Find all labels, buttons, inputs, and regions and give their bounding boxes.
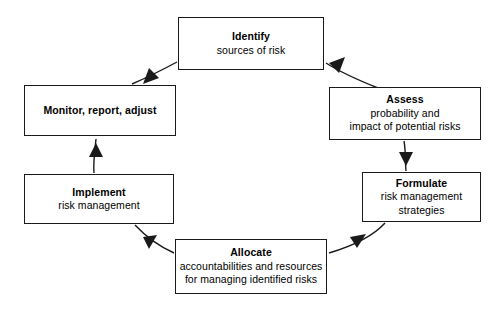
node-formulate-line2: risk management — [381, 190, 462, 203]
node-allocate[interactable]: Allocate accountabilities and resources … — [175, 239, 327, 294]
node-monitor[interactable]: Monitor, report, adjust — [24, 85, 176, 136]
connector-assess-to-formulate — [399, 141, 413, 171]
node-identify[interactable]: Identify sources of risk — [178, 17, 324, 70]
node-identify-line2: sources of risk — [217, 44, 285, 57]
risk-management-cycle-diagram: Identify sources of risk Assess probabil… — [0, 0, 501, 311]
node-implement-title: Implement — [72, 186, 125, 199]
node-formulate-line3: strategies — [398, 204, 444, 217]
connector-monitor-to-identify — [132, 62, 177, 84]
node-allocate-line3: for managing identified risks — [185, 273, 317, 286]
node-formulate[interactable]: Formulate risk management strategies — [362, 172, 481, 222]
node-implement-line2: risk management — [58, 199, 139, 212]
node-assess-line3: impact of potential risks — [350, 120, 461, 133]
node-implement[interactable]: Implement risk management — [24, 174, 174, 224]
node-assess-line2: probability and — [370, 107, 439, 120]
node-allocate-title: Allocate — [230, 246, 272, 259]
node-formulate-title: Formulate — [396, 177, 448, 190]
connector-formulate-to-allocate — [329, 223, 385, 253]
connector-allocate-to-implement — [135, 225, 174, 253]
node-allocate-line2: accountabilities and resources — [180, 260, 323, 273]
node-assess[interactable]: Assess probability and impact of potenti… — [329, 87, 481, 140]
node-identify-title: Identify — [232, 30, 270, 43]
connector-identify-to-assess — [326, 57, 378, 88]
node-monitor-title: Monitor, report, adjust — [43, 104, 156, 117]
connector-implement-to-monitor — [89, 139, 103, 173]
node-assess-title: Assess — [386, 93, 423, 106]
